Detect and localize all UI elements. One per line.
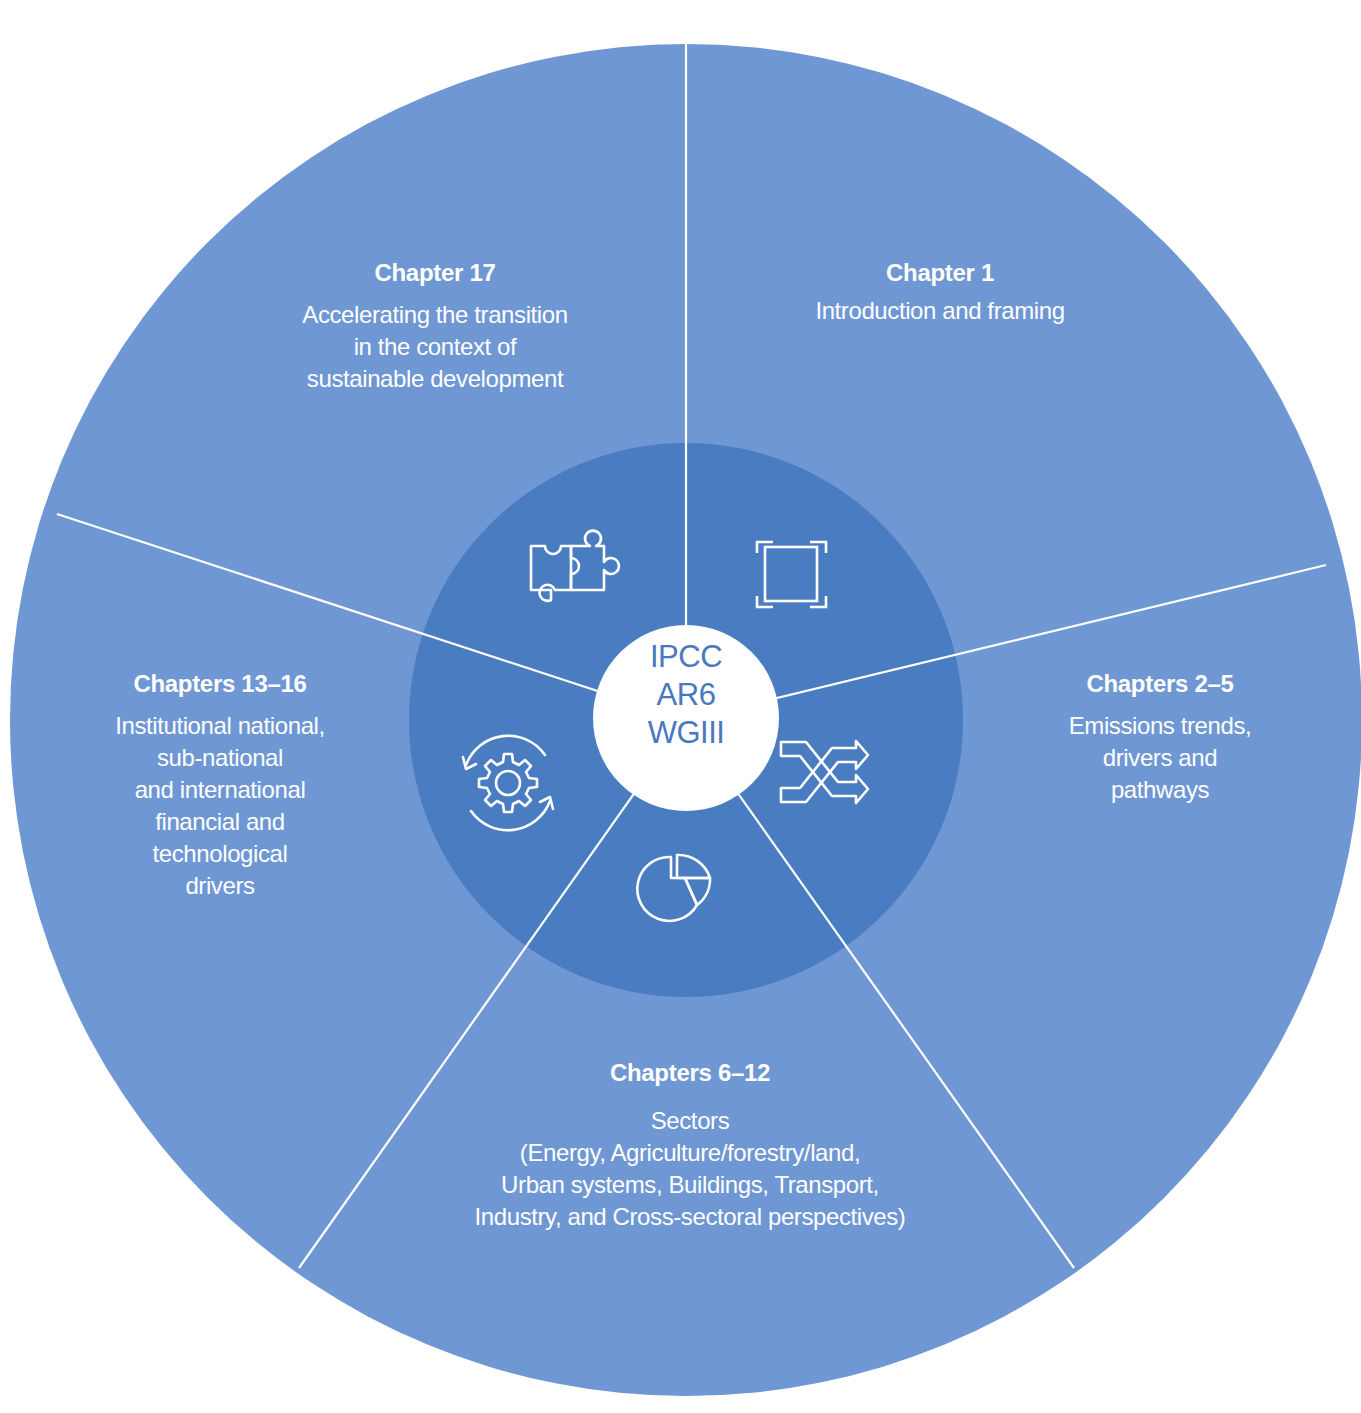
- segment-description: Accelerating the transition in the conte…: [250, 299, 620, 395]
- segment-description: Sectors (Energy, Agriculture/forestry/la…: [440, 1105, 940, 1233]
- segment-title: Chapters 6–12: [440, 1057, 940, 1089]
- segment-chapters-6-12: Chapters 6–12 Sectors (Energy, Agricultu…: [440, 1057, 940, 1233]
- center-line-2: AR6: [593, 676, 779, 714]
- segment-chapters-13-16: Chapters 13–16 Institutional national, s…: [90, 668, 350, 902]
- segment-chapter-1: Chapter 1 Introduction and framing: [760, 257, 1120, 327]
- segment-description: Institutional national, sub-national and…: [90, 710, 350, 902]
- center-line-3: WGIII: [593, 714, 779, 752]
- segment-title: Chapter 17: [250, 257, 620, 289]
- segment-chapter-17: Chapter 17 Accelerating the transition i…: [250, 257, 620, 395]
- center-line-1: IPCC: [593, 638, 779, 676]
- segment-title: Chapters 13–16: [90, 668, 350, 700]
- segment-description: Emissions trends, drivers and pathways: [1030, 710, 1290, 806]
- segment-chapters-2-5: Chapters 2–5 Emissions trends, drivers a…: [1030, 668, 1290, 806]
- segment-description: Introduction and framing: [760, 295, 1120, 327]
- segment-title: Chapter 1: [760, 257, 1120, 289]
- segment-title: Chapters 2–5: [1030, 668, 1290, 700]
- center-label: IPCC AR6 WGIII: [593, 638, 779, 752]
